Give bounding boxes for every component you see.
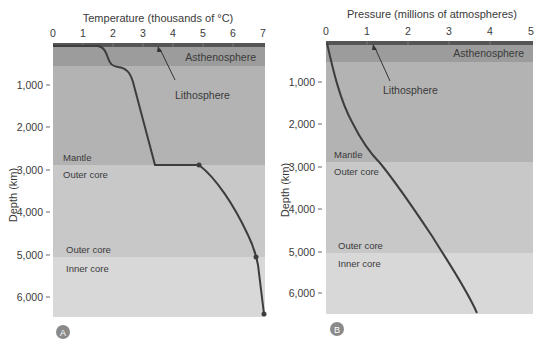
panel-b-title: Pressure (millions of atmospheres) (347, 8, 517, 20)
curve-marker (254, 255, 259, 260)
curve-marker (197, 163, 202, 168)
mantle-label: Mantle (334, 149, 363, 160)
lithosphere-label: Lithosphere (383, 84, 438, 96)
outer-core-label-top: Outer core (334, 166, 379, 177)
svg-text:5,000: 5,000 (289, 246, 315, 258)
svg-text:2,000: 2,000 (289, 118, 315, 130)
svg-text:3: 3 (140, 27, 146, 39)
panel-b-y-label: Depth (km) (279, 163, 291, 217)
panel-a-y-tick-marks (46, 85, 50, 297)
svg-text:1: 1 (80, 27, 86, 39)
svg-text:4: 4 (487, 25, 493, 37)
svg-text:1,000: 1,000 (17, 79, 43, 91)
panel-b-x-ticks: 0 1 2 3 4 5 (323, 25, 534, 37)
asthenosphere-label: Asthenosphere (185, 51, 256, 63)
figure: Temperature (thousands of °C) 0 1 2 3 4 … (0, 0, 545, 351)
svg-text:7: 7 (260, 27, 266, 39)
svg-text:0: 0 (50, 27, 56, 39)
panel-a-y-label: Depth (km) (7, 168, 19, 222)
panel-b-y-ticks: 1,000 2,000 3,000 4,000 5,000 6,000 (289, 76, 315, 299)
svg-text:1,000: 1,000 (289, 76, 315, 88)
panel-b-badge-label: B (334, 325, 340, 335)
mantle-label: Mantle (63, 152, 92, 163)
svg-text:3: 3 (446, 25, 452, 37)
panel-a-badge-label: A (60, 328, 66, 338)
lithosphere-layer (326, 41, 533, 45)
panel-b: Pressure (millions of atmospheres) 0 1 2… (279, 8, 534, 336)
panel-a: Temperature (thousands of °C) 0 1 2 3 4 … (7, 12, 267, 339)
curve-marker (262, 312, 267, 317)
svg-text:2,000: 2,000 (17, 121, 43, 133)
svg-text:5,000: 5,000 (17, 249, 43, 261)
outer-core-label-top: Outer core (63, 169, 108, 180)
svg-text:4,000: 4,000 (17, 206, 43, 218)
panel-a-title: Temperature (thousands of °C) (83, 12, 234, 24)
svg-text:1: 1 (364, 25, 370, 37)
outer-core-label-bottom: Outer core (338, 240, 383, 251)
asthenosphere-label: Asthenosphere (453, 47, 524, 59)
svg-text:6,000: 6,000 (289, 287, 315, 299)
svg-text:4: 4 (170, 27, 176, 39)
svg-text:3,000: 3,000 (17, 164, 43, 176)
svg-text:2: 2 (110, 27, 116, 39)
svg-text:5: 5 (200, 27, 206, 39)
svg-text:0: 0 (323, 25, 329, 37)
svg-text:5: 5 (528, 25, 534, 37)
inner-core-label: Inner core (66, 263, 109, 274)
lithosphere-label: Lithosphere (175, 89, 230, 101)
panel-a-x-ticks: 0 1 2 3 4 5 6 7 (50, 27, 266, 39)
outer-core-label-bottom: Outer core (66, 244, 111, 255)
svg-text:6,000: 6,000 (17, 291, 43, 303)
svg-text:6: 6 (230, 27, 236, 39)
inner-core-label: Inner core (338, 258, 381, 269)
mantle-layer (53, 66, 265, 165)
svg-text:3,000: 3,000 (289, 161, 315, 173)
svg-text:2: 2 (405, 25, 411, 37)
svg-text:4,000: 4,000 (289, 203, 315, 215)
mantle-layer (326, 62, 533, 162)
panel-a-y-ticks: 1,000 2,000 3,000 4,000 5,000 6,000 (17, 79, 43, 303)
panel-b-y-tick-marks (318, 82, 322, 293)
